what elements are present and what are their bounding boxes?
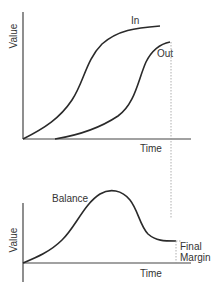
final-margin-label-line1: Final bbox=[180, 241, 202, 252]
top-x-axis-label: Time bbox=[140, 143, 162, 154]
top-y-axis-label: Value bbox=[8, 23, 19, 48]
top-chart: Value Time In Out bbox=[8, 12, 191, 154]
bottom-chart: Value Time Balance Final Margin bbox=[8, 191, 211, 282]
diagram-canvas: Value Time In Out Value Time Balance Fin… bbox=[0, 0, 214, 289]
balance-curve bbox=[23, 191, 176, 263]
in-label: In bbox=[131, 15, 139, 26]
bottom-y-axis-label: Value bbox=[8, 227, 19, 252]
balance-label: Balance bbox=[52, 193, 89, 204]
bottom-x-axis-label: Time bbox=[140, 268, 162, 279]
final-margin-label-line2: Margin bbox=[180, 252, 211, 263]
out-curve bbox=[55, 42, 170, 139]
in-curve bbox=[23, 26, 160, 139]
